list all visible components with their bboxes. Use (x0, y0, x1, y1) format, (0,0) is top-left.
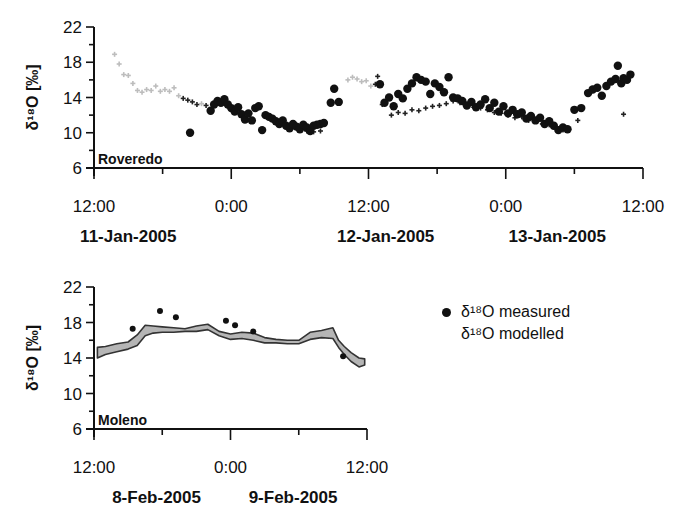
x-tick-label: 12:00 (73, 197, 116, 216)
date-label: 9-Feb-2005 (249, 488, 338, 507)
measured-point (563, 125, 571, 133)
roveredo-chart: 61014182212:000:0012:000:0012:0011-Jan-2… (0, 0, 681, 260)
legend-item-modelled: δ¹⁸O modelled (442, 323, 570, 345)
measured-point (421, 77, 429, 85)
site-label: Moleno (98, 412, 147, 428)
date-label: 11-Jan-2005 (80, 227, 176, 246)
measured-point (335, 98, 343, 106)
measured-point (255, 102, 263, 110)
x-tick-label: 0:00 (214, 458, 247, 477)
y-axis-label: δ¹⁸O [‰] (24, 64, 41, 130)
y-tick-label: 14 (63, 349, 82, 368)
legend-label-measured: δ¹⁸O measured (461, 301, 570, 323)
measured-point (577, 104, 585, 112)
y-tick-label: 10 (63, 385, 82, 404)
measured-point (614, 62, 622, 70)
measured-point (320, 119, 328, 127)
measured-point (186, 129, 194, 137)
measured-point (248, 116, 256, 124)
y-tick-label: 22 (63, 278, 82, 297)
y-tick-label: 14 (63, 89, 82, 108)
x-tick-label: 0:00 (489, 197, 522, 216)
moleno-panel: 61014182212:000:0012:008-Feb-20059-Feb-2… (0, 268, 400, 531)
x-tick-label: 12:00 (346, 458, 389, 477)
measured-point (399, 94, 407, 102)
measured-point (376, 80, 384, 88)
measured-point (173, 314, 179, 320)
y-axis-label: δ¹⁸O [‰] (24, 325, 41, 391)
legend-label-modelled: δ¹⁸O modelled (461, 323, 564, 345)
measured-point (327, 99, 335, 107)
date-label: 12-Jan-2005 (337, 227, 434, 246)
measured-point (232, 322, 238, 328)
y-tick-label: 18 (63, 314, 82, 333)
measured-point (440, 88, 448, 96)
y-tick-label: 10 (63, 124, 82, 143)
y-tick-label: 6 (73, 159, 82, 178)
measured-point (330, 84, 338, 92)
measured-point (258, 126, 266, 134)
date-label: 8-Feb-2005 (112, 488, 201, 507)
y-tick-label: 18 (63, 53, 82, 72)
measured-point (481, 95, 489, 103)
measured-point (157, 308, 163, 314)
x-tick-label: 12:00 (347, 197, 390, 216)
measured-point (626, 70, 634, 78)
measured-point (444, 73, 452, 81)
moleno-chart: 61014182212:000:0012:008-Feb-20059-Feb-2… (0, 268, 400, 531)
date-label: 13-Jan-2005 (509, 227, 606, 246)
site-label: Roveredo (98, 151, 163, 167)
x-tick-label: 0:00 (215, 197, 248, 216)
measured-point (385, 93, 393, 101)
measured-point (389, 102, 397, 110)
measured-point (223, 318, 229, 324)
measured-point (598, 92, 606, 100)
measured-series (186, 62, 635, 137)
measured-point (490, 99, 498, 107)
y-tick-label: 6 (73, 420, 82, 439)
measured-point (593, 84, 601, 92)
legend-item-measured: δ¹⁸O measured (442, 301, 570, 323)
modelled-band (97, 324, 364, 367)
filled-circle-icon (442, 308, 451, 317)
y-tick-label: 22 (63, 18, 82, 37)
x-tick-label: 12:00 (622, 197, 665, 216)
measured-point (426, 90, 434, 98)
measured-point (250, 328, 256, 334)
measured-point (499, 102, 507, 110)
legend: δ¹⁸O measured δ¹⁸O modelled (442, 301, 570, 345)
measured-point (130, 326, 136, 332)
measured-point (340, 353, 346, 359)
roveredo-panel: 61014182212:000:0012:000:0012:0011-Jan-2… (0, 0, 681, 260)
x-tick-label: 12:00 (73, 458, 116, 477)
